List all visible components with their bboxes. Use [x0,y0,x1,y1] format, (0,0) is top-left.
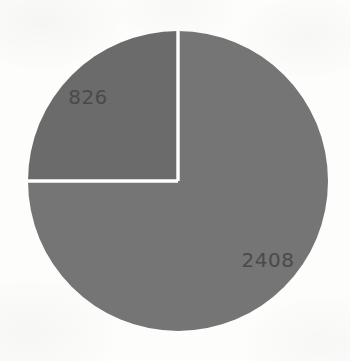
pie-chart-canvas: 826 2408 [0,0,350,361]
pie-slice-label-826: 826 [68,85,108,109]
pie-chart: 826 2408 [0,0,350,361]
pie-slice-label-2408: 2408 [242,248,295,272]
